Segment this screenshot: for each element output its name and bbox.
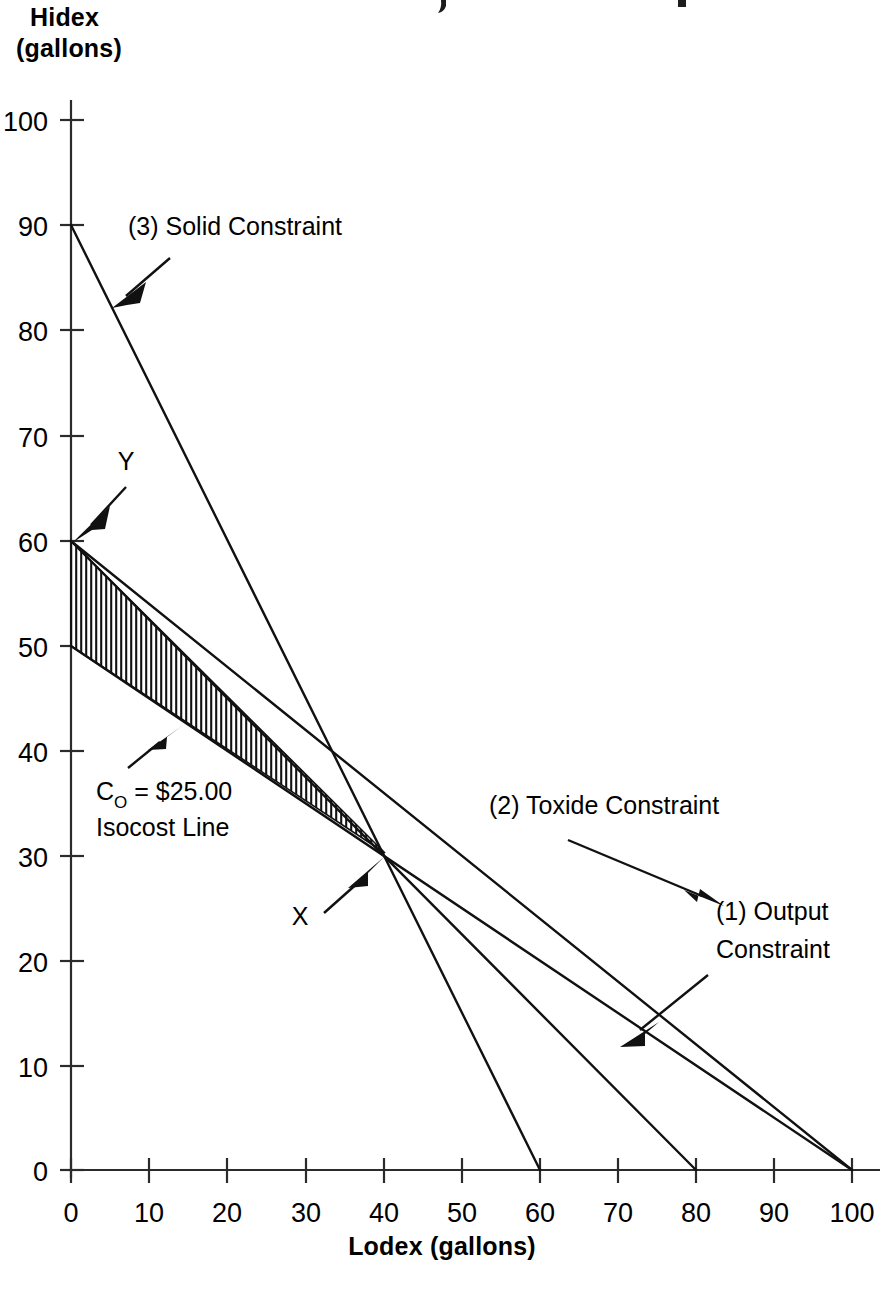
isocost-equals: = $25.00 — [127, 777, 232, 805]
chart-svg: 100 90 80 70 60 50 40 30 20 10 0 — [0, 0, 884, 1295]
point-y-leader — [91, 487, 126, 525]
annotation-isocost: CO = $25.00 Isocost Line — [96, 726, 232, 841]
y-tick-label-70: 70 — [18, 423, 48, 453]
isocost-subscript: O — [114, 793, 127, 812]
isocost-prefix: C — [96, 777, 114, 805]
output-constraint-leader — [640, 975, 708, 1030]
solid-constraint-arrowhead — [112, 282, 146, 308]
y-tick-label-50: 50 — [18, 633, 48, 663]
x-tick-label-10: 10 — [134, 1198, 164, 1228]
x-tick-label-70: 70 — [603, 1198, 633, 1228]
point-x-arrowhead — [348, 857, 384, 888]
output-constraint-arrowhead — [620, 1022, 659, 1047]
x-tick-label-80: 80 — [681, 1198, 711, 1228]
x-tick-label-40: 40 — [369, 1198, 399, 1228]
y-tick-label-40: 40 — [18, 738, 48, 768]
toxide-constraint-leader — [568, 840, 702, 896]
annotation-solid-constraint: (3) Solid Constraint — [112, 212, 342, 308]
y-tick-label-0: 0 — [33, 1157, 48, 1187]
solid-constraint-leader — [126, 258, 170, 296]
isocost-arrowhead — [148, 726, 182, 750]
cropped-title-fragments — [436, 0, 686, 13]
x-tick-label-90: 90 — [759, 1198, 789, 1228]
y-tick-label-80: 80 — [18, 317, 48, 347]
chart-container: Hidex (gallons) Lodex (gallons) — [0, 0, 884, 1295]
x-axis-tick-labels: 0 10 20 30 40 50 60 70 80 90 100 — [63, 1198, 874, 1228]
output-constraint-label-line2: Constraint — [716, 935, 830, 963]
annotation-point-y: Y — [72, 447, 135, 543]
output-constraint-label-line1: (1) Output — [716, 897, 829, 925]
annotation-toxide-constraint: (2) Toxide Constraint — [489, 791, 724, 906]
y-tick-label-100: 100 — [3, 107, 48, 137]
toxide-constraint-label: (2) Toxide Constraint — [489, 791, 719, 819]
x-tick-label-100: 100 — [829, 1198, 874, 1228]
y-tick-label-20: 20 — [18, 948, 48, 978]
x-tick-label-20: 20 — [212, 1198, 242, 1228]
y-tick-label-10: 10 — [18, 1053, 48, 1083]
point-x-label: X — [292, 902, 309, 930]
isocost-label-line2: Isocost Line — [96, 813, 229, 841]
solid-constraint-label: (3) Solid Constraint — [128, 212, 342, 240]
y-tick-label-30: 30 — [18, 843, 48, 873]
point-y-label: Y — [118, 447, 135, 475]
annotation-output-constraint: (1) Output Constraint — [620, 897, 830, 1047]
y-tick-label-60: 60 — [18, 528, 48, 558]
line-toxide-constraint — [71, 541, 852, 1170]
isocost-label-line1: CO = $25.00 — [96, 777, 232, 812]
y-tick-label-90: 90 — [18, 212, 48, 242]
y-axis-tick-labels: 100 90 80 70 60 50 40 30 20 10 0 — [3, 107, 48, 1187]
annotation-point-x: X — [292, 857, 384, 930]
x-tick-label-30: 30 — [291, 1198, 321, 1228]
line-solid-constraint — [71, 225, 540, 1170]
axis-lines — [63, 100, 880, 1178]
x-tick-label-60: 60 — [525, 1198, 555, 1228]
x-tick-label-50: 50 — [447, 1198, 477, 1228]
x-tick-label-0: 0 — [63, 1198, 78, 1228]
